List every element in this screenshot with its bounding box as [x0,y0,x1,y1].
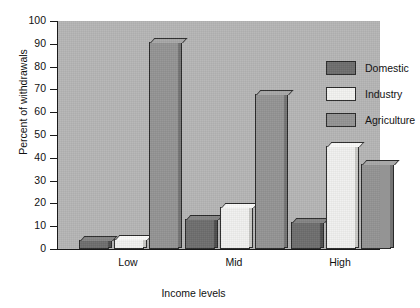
bar-top [327,142,365,147]
bar-high-industry [326,146,356,249]
bar-mid-agriculture [255,94,285,249]
y-tick-label: 40 [34,151,46,164]
x-tick-label-mid: Mid [226,256,243,268]
y-tick-label: 20 [34,196,46,209]
bar-side [390,161,394,249]
y-tick-mark [50,112,57,113]
y-tick-0: 0 [0,249,57,250]
bar-face [221,208,249,248]
bar-low-agriculture [149,42,179,250]
legend-swatch-industry [326,87,356,101]
bar-face [150,43,178,249]
y-tick-mark [50,135,57,136]
y-tick-mark [50,67,57,68]
bar-face [115,240,143,248]
y-tick-label: 30 [34,174,46,187]
legend-label: Agriculture [365,114,415,126]
y-tick-mark [50,21,57,22]
bar-side [214,216,218,248]
y-tick-30: 30 [0,181,57,182]
y-tick-label: 100 [28,14,46,27]
y-axis-title: Percent of withdrawals [17,32,29,172]
bar-face [327,147,355,248]
bar-mid-industry [220,207,250,249]
bar-face [292,223,320,248]
bar-top [115,235,153,240]
y-tick-label: 60 [34,105,46,118]
bar-face [362,165,390,249]
bar-high-agriculture [361,164,391,250]
y-tick-label: 0 [40,242,46,255]
bar-low-domestic [79,240,109,249]
y-tick-20: 20 [0,203,57,204]
bar-face [80,241,108,248]
legend-swatch-agriculture [326,113,356,127]
y-tick-label: 70 [34,82,46,95]
y-tick-10: 10 [0,226,57,227]
bar-top [80,236,118,241]
y-tick-mark [50,158,57,159]
bar-side [249,204,253,248]
y-tick-100: 100 [0,21,57,22]
bar-side [355,143,359,248]
y-tick-mark [50,249,57,250]
bar-top [292,218,330,223]
bar-top [256,90,294,95]
bar-face [256,95,284,248]
bar-top [186,215,224,220]
bar-face [186,220,214,248]
bar-side [284,91,288,248]
y-tick-label: 80 [34,60,46,73]
bar-mid-domestic [185,219,215,249]
bar-side [320,219,324,248]
bar-low-industry [114,239,144,249]
bar-top [221,203,259,208]
bar-side [178,39,182,249]
plot-area: Domestic Industry Agriculture [57,21,380,250]
y-tick-label: 90 [34,37,46,50]
legend-item-domestic: Domestic [326,57,420,78]
legend-item-industry: Industry [326,83,420,104]
legend-label: Industry [365,88,402,100]
legend-label: Domestic [365,62,409,74]
bar-top [150,38,188,43]
legend-swatch-domestic [326,61,356,75]
legend: Domestic Industry Agriculture [326,57,420,135]
y-tick-mark [50,89,57,90]
y-tick-mark [50,44,57,45]
y-tick-mark [50,181,57,182]
bar-high-domestic [291,222,321,249]
x-tick-label-high: High [329,256,351,268]
x-tick-label-low: Low [118,256,137,268]
y-tick-label: 10 [34,219,46,232]
y-tick-label: 50 [34,128,46,141]
y-tick-mark [50,226,57,227]
x-axis-title: Income levels [0,287,387,299]
bar-top [362,160,400,165]
y-tick-mark [50,203,57,204]
legend-item-agriculture: Agriculture [326,109,420,130]
